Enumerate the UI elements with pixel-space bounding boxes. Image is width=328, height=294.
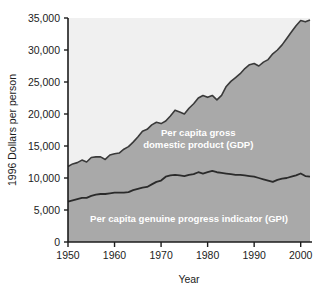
x-tick-label: 1970 <box>149 249 173 261</box>
gdp-band-label: domestic product (GDP) <box>143 139 253 150</box>
y-axis: 05,00010,00015,00020,00025,00030,00035,0… <box>28 12 68 248</box>
x-tick-label: 1980 <box>196 249 220 261</box>
y-tick-label: 30,000 <box>28 44 60 56</box>
y-tick-label: 20,000 <box>28 108 60 120</box>
y-tick-label: 5,000 <box>34 204 60 216</box>
y-tick-label: 10,000 <box>28 172 60 184</box>
chart-figure: 05,00010,00015,00020,00025,00030,00035,0… <box>0 0 328 294</box>
x-tick-label: 1990 <box>242 249 266 261</box>
y-tick-label: 35,000 <box>28 12 60 24</box>
y-tick-label: 15,000 <box>28 140 60 152</box>
x-tick-label: 1960 <box>103 249 127 261</box>
gdp-band-label: Per capita gross <box>161 127 236 138</box>
y-tick-label: 0 <box>54 236 60 248</box>
gdp-gpi-area-chart: 05,00010,00015,00020,00025,00030,00035,0… <box>0 0 328 294</box>
x-axis: 195019601970198019902000 <box>56 242 312 261</box>
x-axis-title: Year <box>178 273 200 285</box>
x-tick-label: 1950 <box>56 249 80 261</box>
x-tick-label: 2000 <box>289 249 313 261</box>
y-axis-title: 1996 Dollars per person <box>6 74 18 186</box>
gpi-band-label: Per capita genuine progress indicator (G… <box>90 213 288 224</box>
y-tick-label: 25,000 <box>28 76 60 88</box>
